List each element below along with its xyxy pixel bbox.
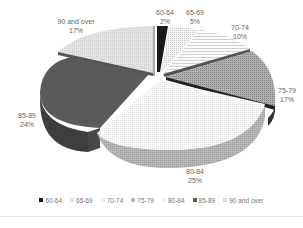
legend-item-90-and-over: 90 and over — [223, 194, 263, 206]
label-65-69-pct: 5% — [190, 18, 200, 25]
label-90-and-over-pct: 17% — [69, 27, 83, 34]
legend-swatch — [193, 198, 197, 202]
label-90-and-over-name: 90 and over — [58, 18, 96, 25]
label-70-74-name: 70-74 — [231, 24, 249, 31]
legend-swatch — [131, 198, 135, 202]
legend-swatch — [101, 198, 105, 202]
legend-item-85-89: 85-89 — [193, 194, 216, 206]
label-60-64-name: 60-64 — [156, 9, 174, 16]
legend-item-65-69: 65-69 — [70, 194, 93, 206]
legend-swatch — [39, 198, 43, 202]
legend-item-75-79: 75-79 — [131, 194, 154, 206]
label-85-89-pct: 24% — [20, 121, 34, 128]
legend-item-80-84: 80-84 — [162, 194, 185, 206]
divider — [0, 216, 303, 217]
label-70-74-pct: 10% — [233, 33, 247, 40]
label-85-89-name: 85-89 — [18, 112, 36, 119]
label-80-84-name: 80-84 — [186, 168, 204, 175]
label-80-84-pct: 25% — [188, 177, 202, 184]
label-75-79-pct: 17% — [280, 96, 294, 103]
label-60-64-pct: 2% — [160, 18, 170, 25]
legend-swatch — [70, 198, 74, 202]
legend-swatch — [223, 198, 227, 202]
chart-legend: 60-64 65-69 70-74 75-79 80-84 85-89 90 a… — [0, 194, 303, 206]
legend-swatch — [162, 198, 166, 202]
label-75-79-name: 75-79 — [278, 87, 296, 94]
label-65-69-name: 65-69 — [186, 9, 204, 16]
legend-item-60-64: 60-64 — [39, 194, 62, 206]
legend-item-70-74: 70-74 — [101, 194, 124, 206]
